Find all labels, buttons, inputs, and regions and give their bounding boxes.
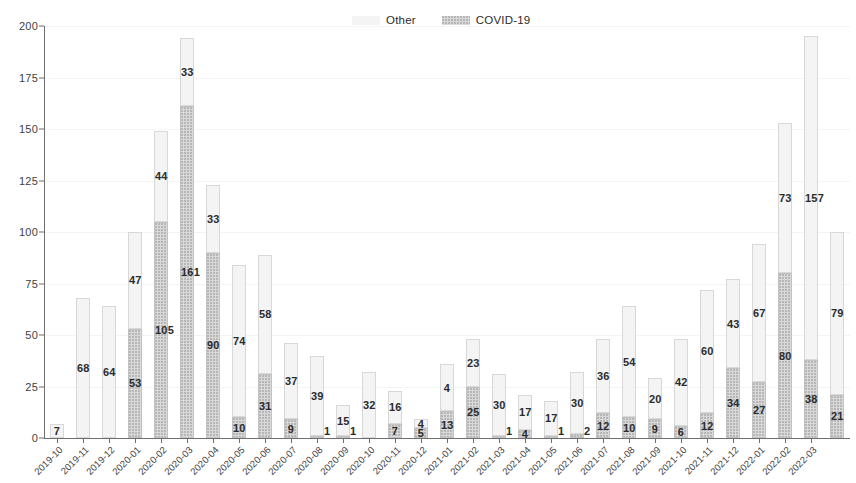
bar-column[interactable]: 10544 bbox=[154, 26, 168, 438]
bar-segment-other[interactable]: 67 bbox=[752, 244, 766, 382]
bar-value-label-other: 30 bbox=[571, 397, 583, 409]
bar-value-label-other: 17 bbox=[545, 412, 557, 424]
bar-segment-other[interactable]: 4 bbox=[414, 419, 428, 427]
bar-column[interactable]: 1260 bbox=[700, 26, 714, 438]
bar-segment-other[interactable]: 7 bbox=[50, 424, 64, 438]
bar-column[interactable]: 920 bbox=[648, 26, 662, 438]
bar-column[interactable]: 230 bbox=[570, 26, 584, 438]
bar-segment-covid-19[interactable]: 12 bbox=[700, 413, 714, 438]
bar-segment-other[interactable]: 36 bbox=[596, 339, 610, 413]
x-axis-tick-mark bbox=[759, 439, 760, 443]
bar-segment-other[interactable]: 58 bbox=[258, 255, 272, 374]
legend-swatch-other-icon bbox=[352, 16, 380, 25]
bar-segment-covid-19[interactable]: 25 bbox=[466, 387, 480, 439]
bar-segment-other[interactable]: 79 bbox=[830, 232, 844, 395]
y-axis-tick-label: 75 bbox=[0, 278, 38, 290]
bar-segment-other[interactable]: 44 bbox=[154, 131, 168, 222]
bar-segment-covid-19[interactable]: 1 bbox=[310, 436, 324, 438]
bar-column[interactable]: 642 bbox=[674, 26, 688, 438]
bar-segment-covid-19[interactable]: 38 bbox=[804, 360, 818, 438]
bar-column[interactable]: 3158 bbox=[258, 26, 272, 438]
bar-segment-other[interactable]: 23 bbox=[466, 339, 480, 386]
bar-segment-covid-19[interactable]: 1 bbox=[492, 436, 506, 438]
bar-value-label-covid-19: 25 bbox=[467, 406, 479, 418]
bar-value-label-other: 23 bbox=[467, 357, 479, 369]
bar-column[interactable]: 3443 bbox=[726, 26, 740, 438]
bar-column[interactable]: 417 bbox=[518, 26, 532, 438]
bar-column[interactable]: 8073 bbox=[778, 26, 792, 438]
bar-segment-other[interactable]: 17 bbox=[544, 401, 558, 436]
bar-segment-covid-19[interactable]: 161 bbox=[180, 106, 194, 438]
bar-column[interactable]: 1074 bbox=[232, 26, 246, 438]
bar-column[interactable]: 68 bbox=[76, 26, 90, 438]
bar-column[interactable]: 134 bbox=[440, 26, 454, 438]
bar-segment-other[interactable]: 73 bbox=[778, 123, 792, 273]
bar-segment-other[interactable]: 37 bbox=[284, 343, 298, 419]
bar-column[interactable]: 716 bbox=[388, 26, 402, 438]
bar-segment-other[interactable]: 32 bbox=[362, 372, 376, 438]
bar-segment-covid-19[interactable]: 10 bbox=[232, 417, 246, 438]
bar-segment-covid-19[interactable]: 34 bbox=[726, 368, 740, 438]
bar-value-label-covid-19: 5 bbox=[415, 427, 427, 439]
bar-segment-covid-19[interactable]: 21 bbox=[830, 395, 844, 438]
bar-segment-other[interactable]: 4 bbox=[440, 364, 454, 411]
bar-segment-other[interactable]: 157 bbox=[804, 36, 818, 359]
bar-value-label-other: 157 bbox=[805, 192, 817, 204]
bar-segment-other[interactable]: 39 bbox=[310, 356, 324, 436]
bar-column[interactable]: 1236 bbox=[596, 26, 610, 438]
bar-segment-covid-19[interactable]: 7 bbox=[388, 424, 402, 438]
bar-segment-covid-19[interactable]: 6 bbox=[674, 426, 688, 438]
bar-segment-other[interactable]: 33 bbox=[180, 38, 194, 106]
bar-segment-covid-19[interactable]: 1 bbox=[544, 436, 558, 438]
plot-area: 7686453471054416133903310743158937139115… bbox=[44, 26, 850, 438]
bar-segment-covid-19[interactable]: 53 bbox=[128, 329, 142, 438]
bar-column[interactable]: 38157 bbox=[804, 26, 818, 438]
bar-value-label-other: 44 bbox=[155, 170, 167, 182]
bar-segment-covid-19[interactable]: 27 bbox=[752, 382, 766, 438]
bar-column[interactable]: 139 bbox=[310, 26, 324, 438]
bar-column[interactable]: 937 bbox=[284, 26, 298, 438]
bar-segment-other[interactable]: 15 bbox=[336, 405, 350, 436]
bar-segment-other[interactable]: 54 bbox=[622, 306, 636, 417]
bar-segment-other[interactable]: 43 bbox=[726, 279, 740, 368]
bar-column[interactable]: 130 bbox=[492, 26, 506, 438]
bar-column[interactable]: 2523 bbox=[466, 26, 480, 438]
bar-segment-covid-19[interactable]: 10 bbox=[622, 417, 636, 438]
bar-segment-other[interactable]: 20 bbox=[648, 378, 662, 419]
bar-segment-covid-19[interactable]: 2 bbox=[570, 434, 584, 438]
bar-column[interactable]: 115 bbox=[336, 26, 350, 438]
bar-column[interactable]: 7 bbox=[50, 26, 64, 438]
bar-segment-other[interactable]: 42 bbox=[674, 339, 688, 426]
bar-segment-other[interactable]: 74 bbox=[232, 265, 246, 417]
bar-column[interactable]: 16133 bbox=[180, 26, 194, 438]
bar-segment-covid-19[interactable]: 9 bbox=[648, 419, 662, 438]
bar-segment-covid-19[interactable]: 13 bbox=[440, 411, 454, 438]
bar-segment-covid-19[interactable]: 9 bbox=[284, 419, 298, 438]
bar-column[interactable]: 117 bbox=[544, 26, 558, 438]
bar-column[interactable]: 54 bbox=[414, 26, 428, 438]
bar-column[interactable]: 32 bbox=[362, 26, 376, 438]
bar-column[interactable]: 2767 bbox=[752, 26, 766, 438]
bar-segment-other[interactable]: 16 bbox=[388, 391, 402, 424]
bar-column[interactable]: 5347 bbox=[128, 26, 142, 438]
bar-segment-covid-19[interactable]: 105 bbox=[154, 222, 168, 438]
bar-segment-covid-19[interactable]: 80 bbox=[778, 273, 792, 438]
bar-segment-other[interactable]: 17 bbox=[518, 395, 532, 430]
bar-column[interactable]: 64 bbox=[102, 26, 116, 438]
bar-column[interactable]: 9033 bbox=[206, 26, 220, 438]
bar-segment-other[interactable]: 30 bbox=[492, 374, 506, 436]
bar-segment-covid-19[interactable]: 90 bbox=[206, 253, 220, 438]
bar-segment-covid-19[interactable]: 12 bbox=[596, 413, 610, 438]
bar-column[interactable]: 2179 bbox=[830, 26, 844, 438]
bar-column[interactable]: 1054 bbox=[622, 26, 636, 438]
bar-segment-covid-19[interactable]: 1 bbox=[336, 436, 350, 438]
bar-segment-other[interactable]: 68 bbox=[76, 298, 90, 438]
bar-segment-covid-19[interactable]: 4 bbox=[518, 430, 532, 438]
bar-segment-other[interactable]: 47 bbox=[128, 232, 142, 329]
bar-segment-other[interactable]: 30 bbox=[570, 372, 584, 434]
bar-segment-other[interactable]: 60 bbox=[700, 290, 714, 414]
bar-segment-covid-19[interactable]: 31 bbox=[258, 374, 272, 438]
bar-segment-covid-19[interactable]: 5 bbox=[414, 428, 428, 438]
bar-segment-other[interactable]: 64 bbox=[102, 306, 116, 438]
bar-segment-other[interactable]: 33 bbox=[206, 185, 220, 253]
